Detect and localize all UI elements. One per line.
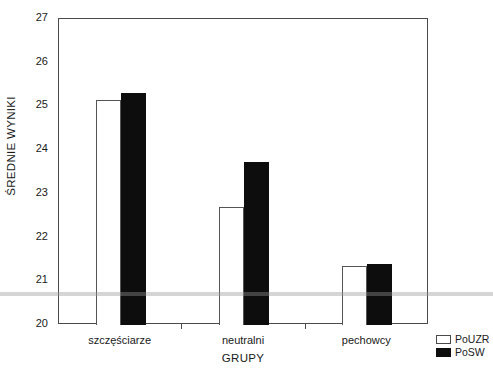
y-axis-tick-label: 20 [22,318,48,329]
chart-figure: ŚREDNIE WYNIKI 2021222324252627 szczęści… [0,0,493,372]
y-axis-tick-label: 21 [22,274,48,285]
bar-posw-0 [121,93,146,325]
bar-pouzr-0 [96,100,121,325]
y-axis-title: ŚREDNIE WYNIKI [5,31,17,261]
y-axis-tick-label: 25 [22,99,48,110]
x-axis-tick-label-1: neutralni [222,334,264,346]
bar-posw-1 [244,162,269,325]
chart-legend: PoUZRPoSW [436,333,489,359]
plot-area [59,19,427,323]
legend-swatch-icon [436,335,451,344]
y-axis-tick-label: 23 [22,187,48,198]
y-axis-tick-label: 24 [22,143,48,154]
y-axis-tick-label: 22 [22,231,48,242]
plot-frame [58,18,428,324]
x-axis-tick-mark [305,324,306,329]
y-axis-tick-label: 27 [22,12,48,23]
x-axis-tick-mark [181,324,182,329]
legend-item-label: PoUZR [455,333,489,345]
legend-item-label: PoSW [455,346,485,358]
bar-pouzr-1 [219,207,244,325]
x-axis-tick-label-2: pechowcy [342,334,391,346]
y-axis-tick-label: 26 [22,56,48,67]
bar-posw-2 [367,264,392,325]
legend-swatch-icon [436,348,451,357]
legend-item-pouzr[interactable]: PoUZR [436,333,489,345]
legend-item-posw[interactable]: PoSW [436,346,489,358]
x-axis-title: GRUPY [222,352,264,364]
bar-pouzr-2 [342,266,367,325]
x-axis-tick-label-0: szczęściarze [88,334,151,346]
